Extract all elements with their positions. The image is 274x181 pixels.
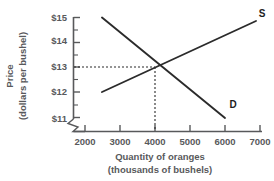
y-axis-subtitle: (dollars per bushel) — [17, 32, 28, 120]
demand-curve — [102, 18, 225, 119]
x-tick-label-5000: 5000 — [179, 136, 200, 147]
supply-curve-label: S — [259, 8, 266, 19]
x-tick-label-2000: 2000 — [74, 136, 95, 147]
y-tick-label-15: $15 — [51, 12, 68, 23]
x-tick-label-3000: 3000 — [109, 136, 130, 147]
y-tick-label-11: $11 — [52, 113, 68, 124]
x-tick-label-6000: 6000 — [214, 136, 235, 147]
supply-demand-chart: Price (dollars per bushel) $15 $14 $13 $… — [0, 0, 274, 181]
x-axis-subtitle: (thousands of bushels) — [108, 164, 213, 175]
y-tick-label-13: $13 — [51, 61, 67, 72]
x-axis-title: Quantity of oranges — [115, 151, 205, 162]
x-tick-label-4000: 4000 — [144, 136, 165, 147]
chart-canvas: Price (dollars per bushel) $15 $14 $13 $… — [0, 0, 274, 181]
x-tick-label-7000: 7000 — [249, 136, 270, 147]
y-axis-title: Price — [4, 64, 15, 87]
demand-curve-label: D — [229, 99, 236, 110]
y-axis-break-icon — [68, 119, 85, 132]
y-tick-label-14: $14 — [51, 35, 68, 46]
y-tick-label-12: $12 — [51, 86, 67, 97]
